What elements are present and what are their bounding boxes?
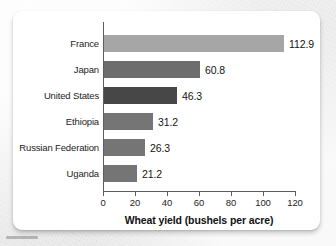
x-axis-title: Wheat yield (bushels per acre) [103,215,295,226]
x-tick-label-80: 80 [216,198,246,208]
category-label-france: France [70,39,99,49]
category-label-japan: Japan [74,65,99,75]
bar-uganda [103,165,137,182]
category-label-united-states: United States [44,91,99,101]
x-tick-label-100: 100 [248,198,278,208]
category-label-ethiopia: Ethiopia [66,117,99,127]
category-label-uganda: Uganda [67,169,99,179]
x-tick-label-120: 120 [280,198,310,208]
x-tick-label-40: 40 [152,198,182,208]
x-tick-0 [103,192,104,196]
value-label-russian-federation: 26.3 [150,143,170,154]
x-tick-label-60: 60 [184,198,214,208]
x-tick-20 [135,192,136,196]
x-tick-60 [199,192,200,196]
x-tick-80 [231,192,232,196]
x-tick-100 [263,192,264,196]
value-label-france: 112.9 [289,39,314,50]
bar-chart-plot-area: France Japan United States Ethiopia Russ… [13,11,320,230]
chart-card: France Japan United States Ethiopia Russ… [13,11,320,230]
bar-united-states [103,87,177,104]
value-label-united-states: 46.3 [182,91,202,102]
bar-ethiopia [103,113,153,130]
x-tick-120 [295,192,296,196]
value-label-uganda: 21.2 [142,169,162,180]
value-label-japan: 60.8 [205,65,225,76]
bar-france [103,35,284,52]
corner-mark [6,236,38,239]
x-tick-label-20: 20 [120,198,150,208]
category-label-russian-federation: Russian Federation [19,143,99,153]
bar-japan [103,61,200,78]
y-axis-line [103,22,104,191]
bar-russian-federation [103,139,145,156]
x-tick-label-0: 0 [88,198,118,208]
value-label-ethiopia: 31.2 [158,117,178,128]
x-tick-40 [167,192,168,196]
